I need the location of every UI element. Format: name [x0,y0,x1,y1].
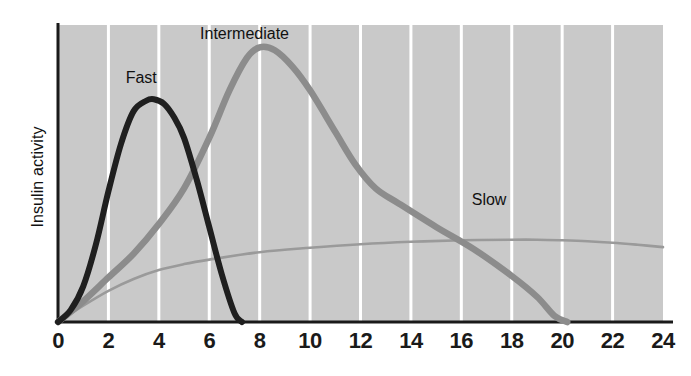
x-tick-label-24: 24 [651,330,674,352]
x-tick-label-16: 16 [450,330,473,352]
series-label-slow: Slow [472,192,507,208]
insulin-activity-chart: Insulin activity 024681012141618202224 F… [0,0,691,376]
x-tick-label-14: 14 [399,330,422,352]
x-tick-label-4: 4 [153,330,165,352]
x-tick-label-0: 0 [52,330,64,352]
x-tick-label-10: 10 [298,330,321,352]
x-tick-label-8: 8 [254,330,266,352]
series-label-fast: Fast [126,70,157,86]
x-tick-label-2: 2 [103,330,115,352]
x-tick-label-20: 20 [550,330,573,352]
x-tick-label-6: 6 [203,330,215,352]
series-label-intermediate: Intermediate [200,26,289,42]
x-tick-label-22: 22 [601,330,624,352]
x-tick-label-12: 12 [349,330,372,352]
x-tick-label-18: 18 [500,330,523,352]
plot-canvas [0,0,691,376]
